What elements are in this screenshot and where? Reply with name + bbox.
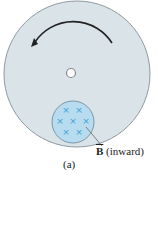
svg-text:×: × [62, 127, 70, 137]
svg-text:×: × [62, 105, 70, 115]
svg-text:×: × [75, 105, 83, 115]
figure-caption: (a) [63, 158, 75, 170]
svg-text:×: × [69, 116, 77, 126]
center-hole [67, 69, 76, 78]
field-label: B (inward) [96, 145, 144, 157]
svg-text:×: × [82, 116, 90, 126]
svg-text:×: × [56, 116, 64, 126]
field-direction: (inward) [103, 145, 144, 157]
svg-text:×: × [75, 127, 83, 137]
